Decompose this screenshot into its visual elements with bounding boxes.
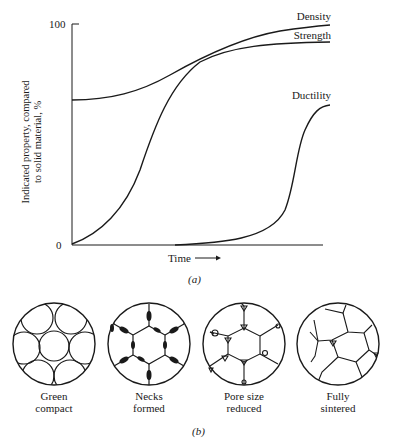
stage-caption-fully-sintered: Fully sintered bbox=[293, 390, 383, 414]
stage-caption-line1: Pore size bbox=[199, 390, 289, 402]
ductility-label: Ductility bbox=[292, 89, 332, 101]
panel-a-label: (a) bbox=[188, 273, 201, 285]
sintering-diagram: 100 0 Time Indicated property, compared … bbox=[0, 0, 399, 448]
ductility-curve bbox=[175, 105, 330, 245]
y-tick-0: 0 bbox=[56, 239, 62, 251]
stage-caption-pore-size-reduced: Pore size reduced bbox=[199, 390, 289, 414]
stage-caption-necks-formed: Necks formed bbox=[104, 390, 194, 414]
necks-formed-illustration bbox=[108, 303, 190, 386]
stage-caption-line2: reduced bbox=[199, 402, 289, 414]
fully-sintered-illustration bbox=[297, 303, 379, 385]
strength-label: Strength bbox=[294, 29, 332, 41]
panel-b-label: (b) bbox=[192, 425, 205, 437]
strength-curve bbox=[72, 42, 330, 244]
stage-caption-line2: formed bbox=[104, 402, 194, 414]
chart-panel-a bbox=[72, 24, 330, 261]
density-label: Density bbox=[297, 10, 332, 22]
stage-caption-line1: Green bbox=[9, 390, 99, 402]
stage-caption-line1: Necks bbox=[104, 390, 194, 402]
y-axis-label-line2: to solid material, % bbox=[32, 101, 43, 183]
green-compact-illustration bbox=[8, 302, 101, 392]
stage-caption-line1: Fully bbox=[293, 390, 383, 402]
time-arrow-head bbox=[216, 256, 221, 261]
x-axis-label: Time bbox=[168, 252, 191, 264]
stage-caption-green-compact: Green compact bbox=[9, 390, 99, 414]
stage-caption-line2: sintered bbox=[293, 402, 383, 414]
y-axis-label-line1: Indicated property, compared bbox=[20, 80, 31, 204]
pore-size-reduced-illustration bbox=[203, 302, 285, 385]
y-axis-label: Indicated property, compared to solid ma… bbox=[20, 80, 43, 204]
stage-caption-line2: compact bbox=[9, 402, 99, 414]
y-tick-100: 100 bbox=[49, 18, 66, 30]
